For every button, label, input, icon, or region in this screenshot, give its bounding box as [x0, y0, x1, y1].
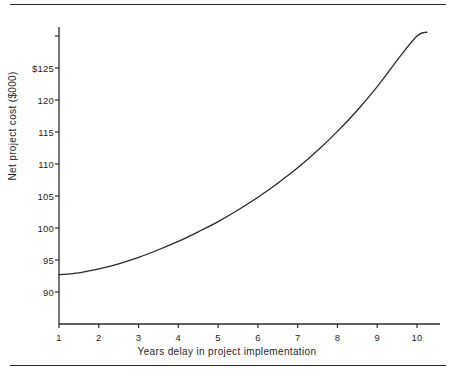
axis-lines [59, 27, 440, 324]
y-tick-label: 100 [16, 223, 54, 234]
figure: 9095100105110115120$125 12345678910 Net … [0, 0, 454, 379]
y-tick-label: 105 [16, 191, 54, 202]
x-tick-label: 1 [56, 332, 61, 343]
y-axis-title: Net project cost ($000) [7, 71, 18, 180]
y-tick-label: 120 [16, 95, 54, 106]
y-tick-label: 95 [16, 255, 54, 266]
x-tick-label: 2 [96, 332, 101, 343]
y-tick-label: $125 [16, 63, 54, 74]
x-tick-label: 4 [176, 332, 181, 343]
x-tick-label: 8 [335, 332, 340, 343]
x-tick-label: 3 [136, 332, 141, 343]
y-tick-label: 110 [16, 159, 54, 170]
x-tick-label: 10 [412, 332, 423, 343]
x-axis-title: Years delay in project implementation [0, 346, 454, 357]
x-tick-label: 5 [215, 332, 220, 343]
x-tick-label: 9 [374, 332, 379, 343]
y-tick-label: 90 [16, 287, 54, 298]
x-tick-label: 7 [295, 332, 300, 343]
cost-curve [59, 32, 427, 275]
line-chart-plot [0, 0, 454, 379]
y-tick-label: 115 [16, 127, 54, 138]
x-tick-label: 6 [255, 332, 260, 343]
